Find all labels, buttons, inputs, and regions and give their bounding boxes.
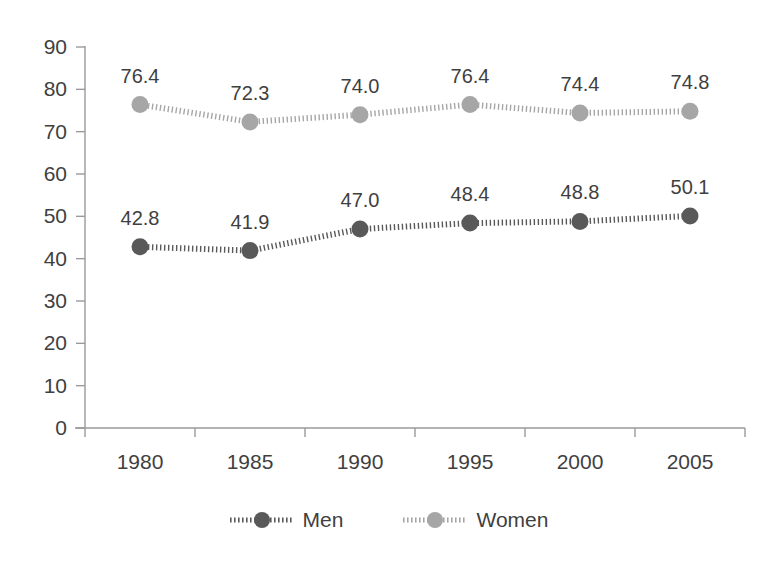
x-tick-label-1990: 1990 — [337, 450, 384, 474]
x-tick-label-1985: 1985 — [227, 450, 274, 474]
chart-legend: Men Women — [0, 508, 778, 532]
data-point-women-1995[interactable] — [462, 96, 479, 113]
data-point-women-1985[interactable] — [242, 113, 259, 130]
y-tick-label-60: 60 — [0, 162, 67, 186]
data-label-men-1985: 41.9 — [231, 211, 270, 234]
data-label-men-1980: 42.8 — [121, 207, 160, 230]
data-label-women-2000: 74.4 — [561, 73, 600, 96]
axes — [75, 46, 745, 437]
data-label-women-1980: 76.4 — [121, 65, 160, 88]
data-point-men-1985[interactable] — [242, 242, 259, 259]
data-label-men-1995: 48.4 — [451, 183, 490, 206]
y-tick-label-10: 10 — [0, 374, 67, 398]
line-chart: 0102030405060708090 19801985199019952000… — [0, 0, 778, 564]
data-point-men-2005[interactable] — [682, 207, 699, 224]
x-tick-label-1995: 1995 — [447, 450, 494, 474]
y-tick-label-40: 40 — [0, 247, 67, 271]
legend-item-men[interactable]: Men — [230, 508, 344, 532]
plot-area — [0, 0, 778, 564]
series-line-men — [140, 216, 690, 251]
data-point-men-1995[interactable] — [462, 215, 479, 232]
data-label-women-2005: 74.8 — [671, 71, 710, 94]
y-tick-label-90: 90 — [0, 35, 67, 59]
legend-marker-men-icon — [230, 510, 294, 530]
y-tick-label-70: 70 — [0, 120, 67, 144]
legend-marker-women-icon — [403, 510, 467, 530]
data-point-men-2000[interactable] — [572, 213, 589, 230]
data-point-men-1980[interactable] — [132, 238, 149, 255]
y-tick-label-0: 0 — [0, 416, 67, 440]
series-layer — [132, 96, 699, 259]
x-tick-label-2000: 2000 — [557, 450, 604, 474]
y-tick-label-50: 50 — [0, 204, 67, 228]
data-point-women-1990[interactable] — [352, 106, 369, 123]
data-label-women-1990: 74.0 — [341, 75, 380, 98]
legend-item-women[interactable]: Women — [403, 508, 548, 532]
data-label-women-1995: 76.4 — [451, 65, 490, 88]
data-label-men-2000: 48.8 — [561, 181, 600, 204]
y-tick-label-30: 30 — [0, 289, 67, 313]
y-tick-label-80: 80 — [0, 77, 67, 101]
legend-label-women: Women — [476, 508, 548, 532]
data-label-women-1985: 72.3 — [231, 82, 270, 105]
data-point-women-2005[interactable] — [682, 103, 699, 120]
data-point-men-1990[interactable] — [352, 221, 369, 238]
legend-label-men: Men — [303, 508, 344, 532]
data-label-men-2005: 50.1 — [671, 176, 710, 199]
data-label-men-1990: 47.0 — [341, 189, 380, 212]
series-line-women — [140, 105, 690, 122]
x-tick-label-2005: 2005 — [667, 450, 714, 474]
data-point-women-2000[interactable] — [572, 105, 589, 122]
y-tick-label-20: 20 — [0, 331, 67, 355]
data-point-women-1980[interactable] — [132, 96, 149, 113]
x-tick-label-1980: 1980 — [117, 450, 164, 474]
